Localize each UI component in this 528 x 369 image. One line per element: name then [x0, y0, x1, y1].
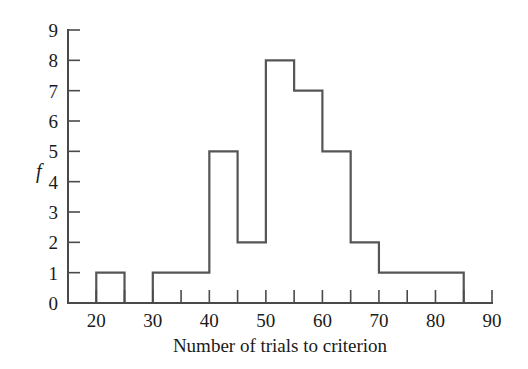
y-tick-label: 3	[49, 202, 59, 223]
y-tick-label: 0	[49, 293, 59, 314]
y-tick-label: 9	[49, 20, 59, 41]
x-axis-title: Number of trials to criterion	[173, 335, 388, 356]
x-tick-label: 70	[369, 310, 388, 331]
x-tick-label: 20	[87, 310, 106, 331]
y-tick-label: 6	[49, 111, 59, 132]
y-axis-ticks	[68, 30, 80, 273]
y-axis-tick-labels: 0123456789	[49, 20, 59, 314]
y-tick-label: 5	[49, 141, 59, 162]
bars-group	[96, 60, 463, 303]
y-tick-label: 8	[49, 50, 59, 71]
y-tick-label: 2	[49, 232, 59, 253]
x-tick-label: 80	[426, 310, 445, 331]
x-tick-label: 40	[200, 310, 219, 331]
x-tick-label: 30	[143, 310, 162, 331]
x-axis-tick-labels: 2030405060708090	[87, 310, 502, 331]
y-tick-label: 7	[49, 81, 59, 102]
y-axis-title: f	[36, 160, 44, 183]
histogram-figure: 0123456789 2030405060708090 f Number of …	[0, 0, 528, 369]
y-tick-label: 1	[49, 263, 59, 284]
x-tick-label: 60	[313, 310, 332, 331]
x-tick-label: 50	[256, 310, 275, 331]
x-tick-label: 90	[483, 310, 502, 331]
bar-group-outline	[153, 60, 464, 303]
x-axis-ticks	[68, 290, 492, 303]
y-tick-label: 4	[49, 172, 59, 193]
bar-group-outline	[96, 273, 124, 303]
histogram-svg: 0123456789 2030405060708090 f Number of …	[0, 0, 528, 369]
